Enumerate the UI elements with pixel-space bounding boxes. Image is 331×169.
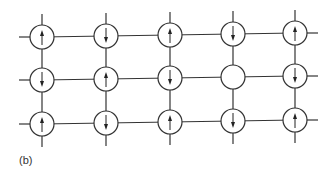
spin-site-up xyxy=(158,23,182,47)
spin-site-up xyxy=(30,112,54,136)
spin-site-up xyxy=(94,67,118,91)
spin-site-down xyxy=(94,24,118,48)
lattice-sites xyxy=(30,21,307,136)
spin-site-down xyxy=(283,64,307,88)
spin-site-up xyxy=(283,108,307,132)
spin-site-up xyxy=(158,110,182,134)
spin-site-down xyxy=(30,68,54,92)
spin-site-up xyxy=(283,21,307,45)
spin-site-down xyxy=(221,22,245,46)
spin-lattice-diagram xyxy=(0,0,331,169)
spin-site-down xyxy=(94,111,118,135)
site-circle xyxy=(221,65,245,89)
spin-site-down xyxy=(221,109,245,133)
panel-label: (b) xyxy=(19,154,32,166)
spin-site-down xyxy=(158,66,182,90)
spin-site-up xyxy=(30,25,54,49)
vacancy-site xyxy=(221,65,245,89)
